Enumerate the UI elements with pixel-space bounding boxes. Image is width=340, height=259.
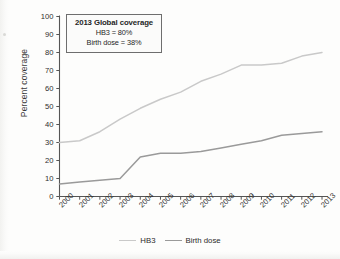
plot-canvas — [0, 0, 340, 259]
y-tick-100: 100 — [32, 12, 54, 21]
y-tick-60: 60 — [32, 84, 54, 93]
chart-legend: HB3Birth dose — [0, 236, 340, 245]
y-axis-title: Percent coverage — [19, 33, 29, 133]
legend-swatch-icon — [119, 240, 136, 241]
y-tick-50: 50 — [32, 102, 54, 111]
y-tick-10: 10 — [32, 174, 54, 183]
legend-label: HB3 — [140, 236, 155, 245]
annotation-box: 2013 Global coverage HB3 = 80% Birth dos… — [66, 14, 162, 53]
annotation-title: 2013 Global coverage — [71, 18, 157, 28]
y-tick-80: 80 — [32, 48, 54, 57]
y-tick-40: 40 — [32, 120, 54, 129]
y-tick-30: 30 — [32, 138, 54, 147]
y-tick-90: 90 — [32, 30, 54, 39]
y-tick-70: 70 — [32, 66, 54, 75]
legend-item-birth-dose[interactable]: Birth dose — [165, 236, 221, 245]
legend-swatch-icon — [165, 240, 182, 241]
chart-figure: Percent coverage 1009080706050403020100 … — [0, 0, 340, 259]
y-tick-20: 20 — [32, 156, 54, 165]
annotation-line-hb3: HB3 = 80% — [71, 28, 157, 38]
annotation-line-birth-dose: Birth dose = 38% — [71, 38, 157, 48]
y-tick-0: 0 — [32, 192, 54, 201]
legend-label: Birth dose — [186, 236, 221, 245]
legend-item-hb3[interactable]: HB3 — [119, 236, 155, 245]
